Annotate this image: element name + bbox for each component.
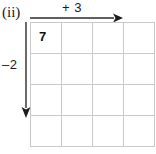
grid: 7 (30, 22, 155, 147)
grid-line-horizontal (30, 84, 155, 85)
grid-cell-value-r0c0: 7 (39, 30, 46, 43)
grid-line-horizontal (30, 22, 155, 23)
part-label: (ii) (2, 5, 20, 20)
grid-line-horizontal (30, 53, 155, 54)
number-grid-figure: (ii) + 3 –2 7 (0, 0, 156, 154)
grid-line-horizontal (30, 115, 155, 116)
grid-line-horizontal (30, 146, 155, 147)
vertical-operation-label: –2 (2, 58, 17, 71)
